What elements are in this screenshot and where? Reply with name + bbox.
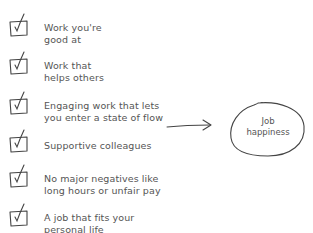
item-label: Engaging work that lets you enter a stat… [44, 100, 163, 124]
item-label-line1: Work you're [44, 22, 102, 34]
item-label-line2: personal life [44, 224, 134, 233]
item-label-line1: A job that fits your [44, 212, 134, 224]
checkbox-checked-icon [8, 90, 30, 116]
list-item: Work that helps others [0, 50, 170, 80]
item-label-line2: you enter a state of flow [44, 112, 163, 124]
item-label-line2: helps others [44, 72, 104, 84]
item-label: Supportive colleagues [44, 140, 152, 152]
arrow-right-icon [166, 119, 214, 133]
list-item: No major negatives like long hours or un… [0, 163, 170, 193]
item-label-line2: long hours or unfair pay [44, 185, 161, 197]
item-label-line2: good at [44, 34, 102, 46]
list-item: A job that fits your personal life [0, 202, 170, 232]
outcome-label: Job happiness [228, 116, 308, 138]
item-label-line1: Engaging work that lets [44, 100, 163, 112]
item-label: Work that helps others [44, 60, 104, 84]
item-label-line1: Supportive colleagues [44, 140, 152, 152]
checkbox-checked-icon [8, 202, 30, 228]
item-label-line1: No major negatives like [44, 173, 161, 185]
list-item: Engaging work that lets you enter a stat… [0, 90, 170, 120]
item-label: A job that fits your personal life [44, 212, 134, 233]
list-item: Supportive colleagues [0, 128, 170, 158]
checkbox-checked-icon [8, 50, 30, 76]
checkbox-checked-icon [8, 128, 30, 154]
outcome-label-line2: happiness [228, 127, 308, 138]
checkbox-checked-icon [8, 12, 30, 38]
checkbox-checked-icon [8, 163, 30, 189]
list-item: Work you're good at [0, 12, 170, 42]
item-label: No major negatives like long hours or un… [44, 173, 161, 197]
outcome-label-line1: Job [228, 116, 308, 127]
item-label: Work you're good at [44, 22, 102, 46]
item-label-line1: Work that [44, 60, 104, 72]
